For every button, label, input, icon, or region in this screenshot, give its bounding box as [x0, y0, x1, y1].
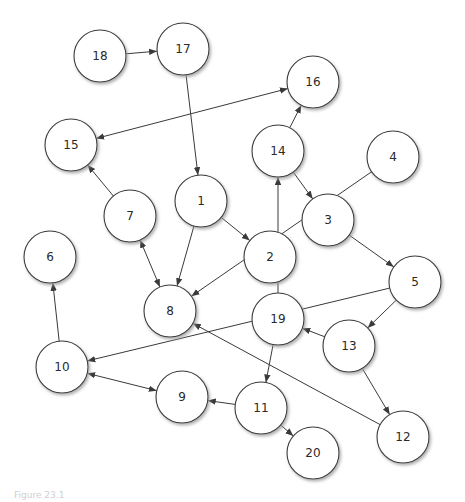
node-label: 6	[46, 250, 54, 264]
edge-14-to-3	[293, 172, 312, 199]
node-label: 10	[54, 360, 69, 374]
edge-7-to-15	[88, 165, 114, 196]
edge-13-to-12	[362, 368, 389, 414]
node-label: 14	[270, 144, 285, 158]
node-label: 8	[166, 304, 174, 318]
node-14: 14	[252, 125, 304, 177]
node-6: 6	[24, 231, 76, 283]
node-label: 17	[175, 42, 190, 56]
node-label: 12	[395, 430, 410, 444]
node-19: 19	[252, 293, 304, 345]
node-label: 19	[270, 312, 285, 326]
edge-1-to-2	[221, 217, 250, 240]
edge-14-to-16	[290, 105, 301, 128]
node-4: 4	[367, 131, 419, 183]
node-label: 13	[341, 339, 356, 353]
node-label: 1	[197, 194, 205, 208]
figure-caption: Figure 23.1	[14, 490, 64, 500]
node-label: 2	[266, 250, 274, 264]
node-20: 20	[287, 427, 339, 479]
node-18: 18	[74, 30, 126, 82]
nodes-layer: 1234567891011121314151617181920	[24, 23, 441, 479]
node-10: 10	[36, 341, 88, 393]
edge-11-to-20	[281, 425, 294, 436]
node-9: 9	[156, 371, 208, 423]
edge-17-to-1	[186, 75, 198, 175]
directed-graph: 1234567891011121314151617181920	[0, 0, 465, 502]
edge-11-to-9	[208, 401, 235, 405]
edge-7-to-8	[140, 240, 160, 287]
node-3: 3	[302, 194, 354, 246]
node-16: 16	[287, 56, 339, 108]
edge-13-to-19	[302, 328, 324, 337]
node-label: 18	[92, 49, 107, 63]
node-label: 9	[178, 390, 186, 404]
node-label: 5	[411, 275, 419, 289]
edge-3-to-5	[349, 235, 394, 267]
node-12: 12	[377, 411, 429, 463]
node-1: 1	[175, 175, 227, 227]
node-15: 15	[45, 119, 97, 171]
node-label: 16	[305, 75, 320, 89]
node-label: 15	[63, 138, 78, 152]
node-label: 4	[389, 150, 397, 164]
edge-18-to-17	[126, 51, 157, 54]
edge-1-to-8	[177, 226, 194, 286]
node-label: 20	[305, 446, 320, 460]
node-17: 17	[157, 23, 209, 75]
edge-5-to-13	[368, 300, 397, 328]
edges-layer	[53, 51, 397, 436]
edge-10-to-6	[53, 283, 59, 341]
node-5: 5	[389, 256, 441, 308]
node-label: 3	[324, 213, 332, 227]
edge-16-to-15	[96, 89, 288, 139]
node-8: 8	[144, 285, 196, 337]
node-7: 7	[104, 190, 156, 242]
node-2: 2	[244, 231, 296, 283]
node-label: 7	[126, 209, 134, 223]
edge-10-to-9	[87, 373, 157, 390]
node-label: 11	[253, 401, 268, 415]
node-13: 13	[323, 320, 375, 372]
node-11: 11	[235, 382, 287, 434]
